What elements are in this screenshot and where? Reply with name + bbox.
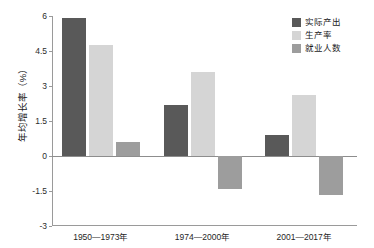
x-axis-line <box>52 225 357 226</box>
bar <box>265 135 289 156</box>
legend-label: 就业人数 <box>305 43 341 53</box>
y-tick-mark <box>49 86 52 87</box>
y-tick-label: 4.5 <box>35 46 47 56</box>
bar <box>319 156 343 195</box>
y-tick-label: -1.5 <box>32 186 47 196</box>
bar <box>191 72 215 156</box>
legend-item-2[interactable]: 就业人数 <box>292 43 341 53</box>
bar <box>89 45 113 156</box>
y-tick-mark <box>49 121 52 122</box>
legend-label: 生产率 <box>305 30 332 40</box>
y-tick-label: 3 <box>42 81 47 91</box>
legend-item-0[interactable]: 实际产出 <box>292 17 341 27</box>
legend-swatch-icon <box>292 18 301 27</box>
bar <box>116 142 140 156</box>
y-axis-title: 年均增长率（%） <box>15 43 29 163</box>
y-tick-mark <box>49 16 52 17</box>
legend-label: 实际产出 <box>305 17 341 27</box>
y-tick-mark <box>49 51 52 52</box>
bar <box>164 105 188 156</box>
y-tick-label: 6 <box>42 11 47 21</box>
legend-swatch-icon <box>292 31 301 40</box>
legend-swatch-icon <box>292 44 301 53</box>
y-axis-line <box>52 16 53 226</box>
category-label: 2001—2017年 <box>276 230 331 242</box>
zero-line <box>52 156 357 157</box>
y-tick-mark <box>49 191 52 192</box>
y-tick-mark <box>49 226 52 227</box>
category-label: 1950—1973年 <box>73 230 128 242</box>
y-tick-label: -3 <box>39 221 47 231</box>
category-label: 1974—2000年 <box>175 230 230 242</box>
legend-item-1[interactable]: 生产率 <box>292 30 341 40</box>
bar <box>292 95 316 156</box>
bar <box>218 156 242 189</box>
y-tick-label: 1.5 <box>35 116 47 126</box>
y-tick-label: 0 <box>42 151 47 161</box>
bar-chart: 年均增长率（%） 64.531.50-1.5-3 1950—1973年1974—… <box>0 0 374 248</box>
legend: 实际产出 生产率 就业人数 <box>292 17 341 53</box>
bar <box>62 18 86 156</box>
